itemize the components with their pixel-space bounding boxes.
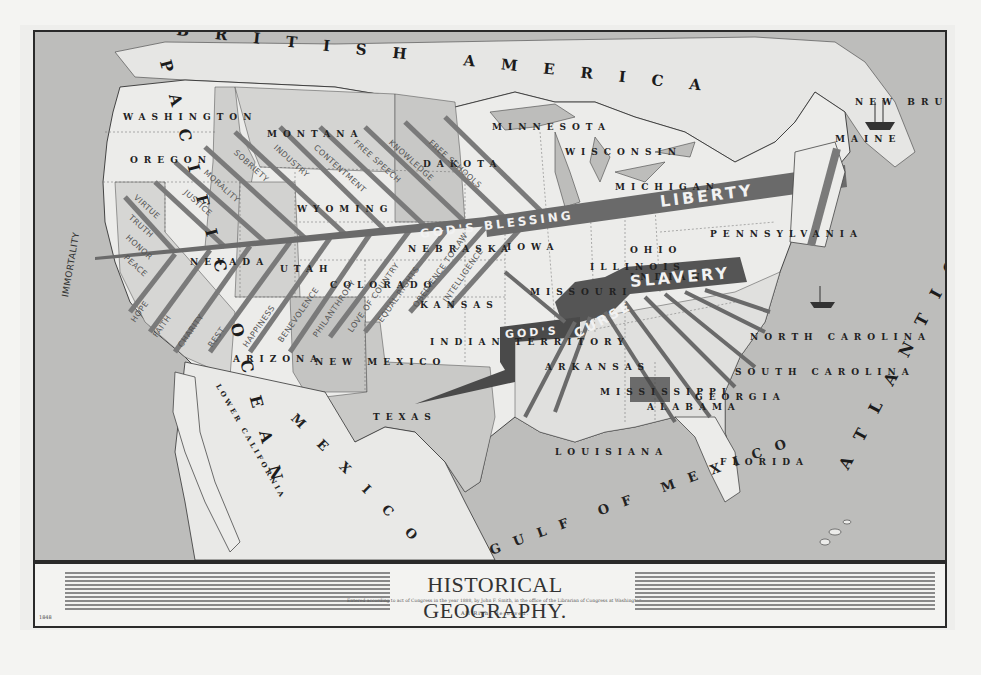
state-label: MINNESOTA bbox=[492, 122, 611, 132]
map-frame: BRITISH AMERICA PACIFIC OCEAN ATLANTIC O… bbox=[33, 30, 947, 562]
caribbean-islands bbox=[820, 520, 851, 545]
state-label: OHIO bbox=[630, 245, 682, 255]
state-label: MONTANA bbox=[267, 129, 363, 139]
state-label: PENNSYLVANIA bbox=[710, 229, 863, 239]
state-label: MISSOURI bbox=[530, 287, 632, 297]
state-label: ALABAMA bbox=[647, 402, 741, 412]
state-label: KANSAS bbox=[420, 300, 499, 310]
footer-panel: HISTORICAL GEOGRAPHY. Entered according … bbox=[33, 562, 947, 628]
text-column-1 bbox=[65, 570, 175, 618]
state-label: GEORGIA bbox=[695, 392, 786, 402]
text-column-6 bbox=[845, 570, 935, 618]
state-label: LOUISIANA bbox=[555, 447, 668, 457]
state-label: NEW MEXICO bbox=[315, 357, 446, 367]
text-column-5 bbox=[745, 570, 855, 618]
state-label: ARIZONA bbox=[233, 354, 323, 364]
state-label: SOUTH CAROLINA bbox=[735, 367, 915, 377]
state-label: FLORIDA bbox=[720, 457, 809, 467]
plate-number: 1848 bbox=[39, 614, 52, 620]
text-column-2 bbox=[175, 570, 285, 618]
state-label: ARKANSAS bbox=[545, 362, 650, 372]
rights-reserved: All Right Reserved. bbox=[365, 610, 625, 616]
state-label: UTAH bbox=[280, 264, 334, 274]
state-label: WASHINGTON bbox=[123, 112, 257, 122]
text-column-4 bbox=[635, 570, 745, 618]
state-label: OREGON bbox=[130, 155, 212, 165]
state-label: IOWA bbox=[507, 242, 560, 252]
state-label: NORTH CAROLINA bbox=[750, 332, 931, 342]
state-label: NEVADA bbox=[190, 257, 269, 267]
state-label: NEW BRUNSWICK bbox=[855, 97, 947, 107]
state-label: WYOMING bbox=[297, 204, 393, 214]
copyright-line: Entered according to act of Congress in … bbox=[335, 598, 655, 603]
state-label: WISCONSIN bbox=[565, 147, 682, 157]
state-label: TEXAS bbox=[373, 412, 437, 422]
state-label: MAINE bbox=[835, 134, 901, 144]
